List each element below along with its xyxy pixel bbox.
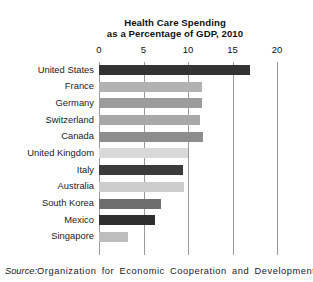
x-tick-label-10: 10	[183, 44, 194, 55]
category-label-singapore: Singapore	[51, 230, 94, 241]
category-label-italy: Italy	[77, 164, 94, 175]
source-note: Source:Organization for Economic Coopera…	[5, 266, 308, 277]
bar-rows: United StatesFranceGermanySwitzerlandCan…	[0, 62, 313, 246]
x-tick-label-0: 0	[96, 44, 101, 55]
bar-france	[99, 82, 202, 92]
bar-row: United States	[0, 62, 313, 79]
bar-singapore	[99, 232, 128, 242]
category-label-australia: Australia	[58, 180, 94, 191]
category-label-germany: Germany	[55, 97, 94, 108]
bar-row: United Kingdom	[0, 145, 313, 162]
bar-canada	[99, 132, 203, 142]
category-label-switzerland: Switzerland	[46, 114, 94, 125]
bar-south-korea	[99, 199, 161, 209]
chart-title-line-2: as a Percentage of GDP, 2010	[60, 28, 290, 39]
health-care-spending-chart: Health Care Spending as a Percentage of …	[0, 0, 313, 282]
bar-row: Mexico	[0, 212, 313, 229]
category-label-united-states: United States	[38, 64, 94, 75]
x-axis-tick-labels: 05101520	[99, 44, 277, 58]
bar-row: Singapore	[0, 229, 313, 246]
bar-row: Italy	[0, 162, 313, 179]
bar-row: France	[0, 79, 313, 96]
bar-italy	[99, 165, 183, 175]
category-label-france: France	[65, 80, 94, 91]
bar-mexico	[99, 215, 155, 225]
x-tick-label-20: 20	[272, 44, 283, 55]
chart-title: Health Care Spending as a Percentage of …	[60, 17, 290, 40]
source-label: Source:	[5, 266, 37, 276]
category-label-united-kingdom: United Kingdom	[27, 147, 94, 158]
chart-title-line-1: Health Care Spending	[60, 17, 290, 28]
x-tick-label-5: 5	[141, 44, 146, 55]
bar-germany	[99, 98, 202, 108]
bar-united-kingdom	[99, 148, 188, 158]
bar-united-states	[99, 65, 250, 75]
source-text: Organization for Economic Cooperation an…	[37, 266, 313, 276]
category-label-canada: Canada	[61, 130, 94, 141]
bar-row: Canada	[0, 129, 313, 146]
category-label-south-korea: South Korea	[42, 197, 94, 208]
bar-row: Germany	[0, 95, 313, 112]
x-tick-label-15: 15	[227, 44, 238, 55]
bar-row: South Korea	[0, 196, 313, 213]
category-label-mexico: Mexico	[64, 214, 94, 225]
bar-switzerland	[99, 115, 200, 125]
bar-row: Australia	[0, 179, 313, 196]
bar-australia	[99, 182, 184, 192]
bar-row: Switzerland	[0, 112, 313, 129]
